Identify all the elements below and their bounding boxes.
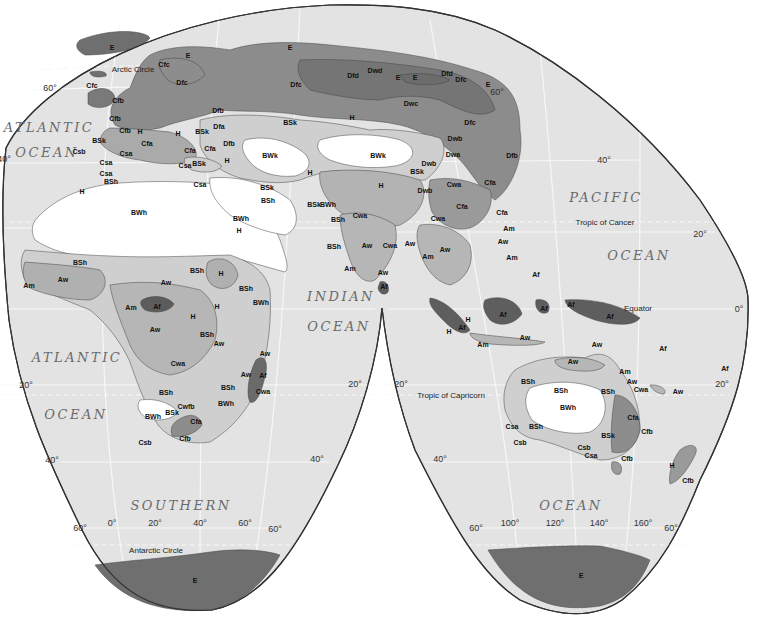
climate-zone-label: E — [193, 577, 198, 584]
climate-zone-label: Aw — [378, 269, 388, 276]
degree-label: 40° — [193, 518, 207, 528]
climate-zone-label: Aw — [161, 279, 171, 286]
climate-zone-label: E — [486, 81, 491, 88]
climate-zone-label: BWk — [370, 152, 386, 159]
climate-zone-label: Dfc — [464, 119, 475, 126]
climate-zone-label: H — [175, 130, 180, 137]
climate-zone-label: Af — [606, 313, 613, 320]
degree-label: 60° — [469, 523, 483, 533]
climate-zone-label: BWh — [253, 299, 269, 306]
climate-zone-label: BWh — [131, 209, 147, 216]
degree-label: 40° — [45, 455, 59, 465]
climate-zone-label: Dfb — [212, 107, 224, 114]
climate-zone-label: Cfc — [158, 61, 169, 68]
climate-zone-label: Csa — [506, 423, 519, 430]
degree-label: 0° — [735, 304, 744, 314]
climate-zone-label: Aw — [498, 238, 508, 245]
climate-zone-label: H — [446, 328, 451, 335]
arctic-circle-label: Arctic Circle — [112, 65, 155, 74]
degree-label: 40° — [433, 454, 447, 464]
degree-label: 60° — [43, 83, 57, 93]
climate-zone-label: Dfd — [347, 72, 359, 79]
climate-zone-label: E — [186, 52, 191, 59]
climate-zone-label: Dwc — [404, 100, 418, 107]
climate-zone-label: Dfc — [176, 79, 187, 86]
climate-zone-label: Af — [721, 365, 728, 372]
climate-zone-label: Aw — [440, 246, 450, 253]
climate-zone-label: BWh — [320, 201, 336, 208]
climate-zone-label: Aw — [150, 326, 160, 333]
climate-zone-label: Csb — [138, 439, 151, 446]
climate-zone-label: Am — [506, 254, 517, 261]
ocean-label: OCEAN — [607, 248, 670, 263]
climate-zone-label: Aw — [58, 276, 68, 283]
climate-zone-label: Af — [659, 345, 666, 352]
climate-zone-label: Am — [503, 225, 514, 232]
climate-zone-label: H — [79, 188, 84, 195]
climate-zone-label: Cwa — [353, 212, 367, 219]
ocean-label: OCEAN — [539, 498, 602, 513]
climate-zone-label: Cfa — [456, 203, 467, 210]
climate-zone-label: Aw — [260, 350, 270, 357]
climate-zone-label: Dfa — [213, 123, 224, 130]
climate-zone-label: BWh — [233, 215, 249, 222]
climate-zone-label: Cfa — [627, 414, 638, 421]
degree-label: 60° — [664, 523, 678, 533]
climate-zone-label: Aw — [362, 242, 372, 249]
climate-zone-label: BSk — [192, 160, 206, 167]
climate-zone-label: Af — [153, 303, 160, 310]
climate-zone-label: E — [110, 44, 115, 51]
antarctic-circle-label: Antarctic Circle — [129, 546, 183, 555]
climate-zone-label: Am — [619, 368, 630, 375]
degree-label: 20° — [19, 380, 33, 390]
degree-label: 20° — [715, 379, 729, 389]
climate-zone-label: E — [288, 44, 293, 51]
climate-zone-label: Dfc — [290, 81, 301, 88]
climate-zone-label: Cfc — [86, 82, 97, 89]
climate-zone-label: BSh — [601, 388, 615, 395]
climate-zone-label: BSh — [554, 387, 568, 394]
climate-zone-label: Af — [567, 301, 574, 308]
climate-zone-label: BWh — [560, 404, 576, 411]
climate-zone-label: Dwd — [368, 67, 383, 74]
climate-zone-label: Aw — [405, 240, 415, 247]
climate-zone-label: Cwa — [634, 386, 648, 393]
climate-zone-label: BSk — [410, 168, 424, 175]
ocean-label: PACIFIC — [569, 190, 643, 205]
degree-label: 120° — [546, 518, 565, 528]
climate-zone-label: BSk — [165, 409, 179, 416]
climate-zone-label: BSk — [307, 201, 321, 208]
climate-zone-label: BWh — [145, 413, 161, 420]
ocean-label: OCEAN — [15, 145, 78, 160]
climate-zone-label: Af — [259, 372, 266, 379]
degree-label: 60° — [73, 523, 87, 533]
climate-zone-label: H — [236, 227, 241, 234]
ocean-label: OCEAN — [44, 407, 107, 422]
climate-zone-label: BSh — [331, 216, 345, 223]
climate-zone-label: BSh — [529, 423, 543, 430]
degree-label: 20° — [348, 379, 362, 389]
climate-map — [0, 0, 771, 632]
climate-zone-label: Cfb — [682, 477, 694, 484]
climate-zone-label: Cwa — [256, 388, 270, 395]
climate-zone-label: Aw — [568, 358, 578, 365]
climate-zone-label: Cwfb — [177, 403, 194, 410]
climate-zone-label: Af — [540, 305, 547, 312]
climate-zone-label: Cfb — [621, 455, 633, 462]
climate-zone-label: Cfb — [179, 435, 191, 442]
climate-zone-label: Csb — [513, 439, 526, 446]
climate-zone-label: E — [579, 572, 584, 579]
climate-zone-label: H — [378, 182, 383, 189]
climate-zone-label: Cfa — [484, 179, 495, 186]
climate-zone-label: BSk — [195, 128, 209, 135]
climate-zone-label: Af — [458, 324, 465, 331]
degree-label: 20° — [148, 518, 162, 528]
climate-zone-label: Am — [23, 282, 34, 289]
climate-zone-label: Cwa — [447, 181, 461, 188]
climate-zone-label: Dwb — [422, 160, 437, 167]
climate-zone-label: Cwa — [431, 215, 445, 222]
climate-zone-label: Csa — [585, 452, 598, 459]
climate-zone-label: Af — [499, 311, 506, 318]
equator-label: Equator — [624, 304, 652, 313]
climate-zone-label: BSh — [200, 331, 214, 338]
